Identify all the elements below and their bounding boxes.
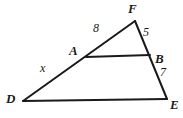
label-A: A: [69, 44, 78, 57]
measure-label-FA: 8: [93, 22, 99, 34]
label-B: B: [155, 52, 164, 65]
segment-DE: [23, 99, 167, 101]
label-F: F: [128, 2, 137, 15]
measure-label-BE: 7: [160, 66, 166, 78]
segment-AB: [86, 55, 150, 57]
measure-label-AD: x: [40, 62, 45, 74]
label-E: E: [170, 98, 179, 111]
measure-label-FB: 5: [143, 26, 149, 38]
label-D: D: [6, 92, 15, 105]
geometry-figure: F A B D E 8 5 7 x: [0, 0, 183, 118]
